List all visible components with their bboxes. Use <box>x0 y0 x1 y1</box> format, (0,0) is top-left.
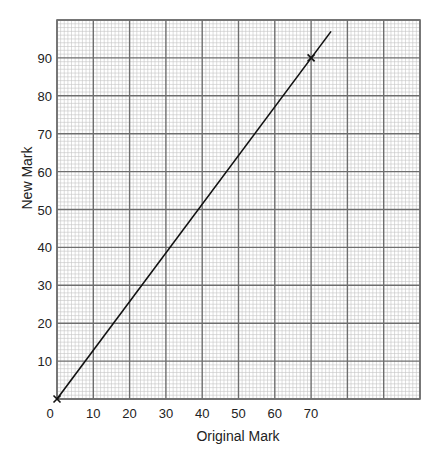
y-tick-label: 20 <box>38 316 52 331</box>
x-tick-label: 60 <box>268 406 282 421</box>
y-tick-label: 80 <box>38 89 52 104</box>
x-tick-label: 70 <box>304 406 318 421</box>
x-tick-label: 30 <box>159 406 173 421</box>
y-tick-label: 60 <box>38 165 52 180</box>
y-tick-label: 40 <box>38 240 52 255</box>
x-tick-label: 40 <box>195 406 209 421</box>
y-tick-label: 30 <box>38 278 52 293</box>
x-tick-label: 50 <box>231 406 245 421</box>
conversion-line <box>57 31 331 399</box>
x-tick-label: 20 <box>122 406 136 421</box>
y-axis-label: New Mark <box>19 146 35 210</box>
y-tick-label: 50 <box>38 203 52 218</box>
x-tick-labels: 010203040506070 <box>46 406 318 421</box>
x-tick-label: 10 <box>86 406 100 421</box>
chart: 010203040506070 102030405060708090 Origi… <box>0 0 441 453</box>
y-tick-labels: 102030405060708090 <box>38 51 52 369</box>
y-tick-label: 70 <box>38 127 52 142</box>
y-tick-label: 90 <box>38 51 52 66</box>
x-tick-label: 0 <box>46 406 53 421</box>
x-axis-label: Original Mark <box>196 428 280 444</box>
y-tick-label: 10 <box>38 354 52 369</box>
